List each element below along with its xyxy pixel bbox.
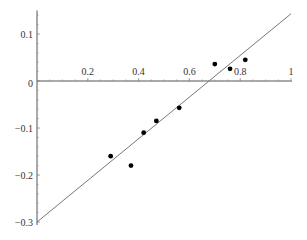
series-layer xyxy=(37,14,291,222)
x-ticks: 0.20.40.60.81 xyxy=(50,66,294,81)
y-tick-label: −0.2 xyxy=(15,170,33,181)
x-tick-label: 1 xyxy=(289,66,294,77)
y-tick-label: 0 xyxy=(28,78,33,89)
data-point xyxy=(129,163,134,168)
fitted-line xyxy=(37,14,291,222)
data-point xyxy=(154,119,159,124)
y-tick-label: −0.1 xyxy=(15,123,33,134)
data-point xyxy=(141,130,146,135)
x-tick-label: 0.2 xyxy=(82,66,95,77)
scatter-chart: 0.20.40.60.81 0.10−0.1−0.2−0.3 xyxy=(0,0,307,240)
x-tick-label: 0.8 xyxy=(234,66,247,77)
y-tick-label: 0.1 xyxy=(21,29,34,40)
data-point xyxy=(212,62,217,67)
y-tick-label: −0.3 xyxy=(15,217,33,228)
y-ticks: 0.10−0.1−0.2−0.3 xyxy=(15,15,40,227)
data-point xyxy=(177,105,182,110)
x-tick-label: 0.4 xyxy=(132,66,145,77)
x-tick-label: 0.6 xyxy=(183,66,196,77)
data-point xyxy=(243,57,248,62)
data-point xyxy=(228,66,233,71)
data-point xyxy=(108,154,113,159)
